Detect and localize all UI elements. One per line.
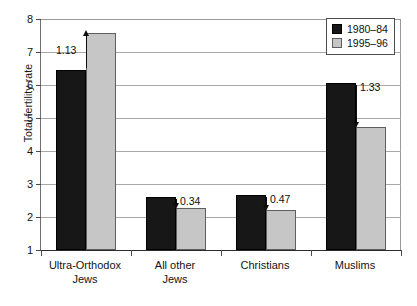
- legend-entry: 1995–96: [332, 36, 388, 50]
- x-tick-mark: [311, 250, 312, 256]
- bar: [86, 33, 116, 250]
- legend-entry: 1980–84: [332, 22, 388, 36]
- x-tick-mark: [221, 250, 222, 256]
- fertility-rate-bar-chart: Total fertility rate 12345678 1.130.340.…: [0, 0, 417, 306]
- annotation-arrow-down-icon: [173, 203, 179, 209]
- y-tick-label: 5: [27, 113, 33, 124]
- annotation-arrow-up-icon: [83, 30, 89, 36]
- bar: [146, 197, 176, 250]
- x-axis-category-label: Muslims: [300, 258, 410, 272]
- annotation-label: 0.47: [270, 194, 290, 205]
- annotation-connector-line: [356, 85, 357, 125]
- y-tick-label: 4: [27, 146, 33, 157]
- legend-swatch: [332, 24, 342, 34]
- plot-frame-right: [400, 19, 401, 250]
- annotation-label: 1.33: [360, 82, 380, 93]
- y-tick-label: 6: [27, 80, 33, 91]
- x-tick-mark: [41, 250, 42, 256]
- annotation-arrow-down-icon: [263, 205, 269, 211]
- legend-label: 1980–84: [347, 24, 388, 35]
- bar: [56, 70, 86, 250]
- y-tick-mark: [36, 85, 41, 86]
- legend-swatch: [332, 38, 342, 48]
- y-tick-mark: [36, 217, 41, 218]
- x-tick-mark: [401, 250, 402, 256]
- annotation-arrow-down-icon: [353, 122, 359, 128]
- bar: [236, 195, 266, 250]
- y-tick-label: 3: [27, 179, 33, 190]
- y-tick-mark: [36, 151, 41, 152]
- bar: [176, 208, 206, 250]
- y-tick-label: 7: [27, 47, 33, 58]
- y-tick-label: 8: [27, 14, 33, 25]
- bar: [356, 127, 386, 250]
- annotation-label: 0.34: [180, 196, 200, 207]
- annotation-label: 1.13: [56, 45, 76, 56]
- y-tick-mark: [36, 184, 41, 185]
- y-tick-label: 2: [27, 212, 33, 223]
- y-tick-mark: [36, 52, 41, 53]
- annotation-connector-line: [86, 35, 87, 68]
- bar: [326, 83, 356, 250]
- bar: [266, 210, 296, 250]
- legend-label: 1995–96: [347, 38, 388, 49]
- y-tick-mark: [36, 19, 41, 20]
- y-tick-mark: [36, 118, 41, 119]
- x-tick-mark: [131, 250, 132, 256]
- chart-legend: 1980–841995–96: [326, 18, 395, 55]
- y-tick-label: 1: [27, 245, 33, 256]
